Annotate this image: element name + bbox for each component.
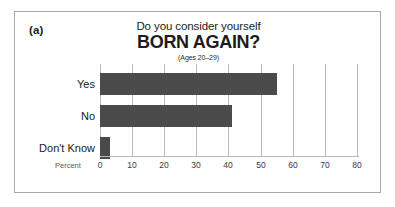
- x-tick-60: 60: [288, 160, 297, 171]
- x-tick-70: 70: [320, 160, 329, 171]
- plot-area: [100, 64, 358, 156]
- category-label-dont-know: Don't Know: [13, 142, 95, 154]
- gridline-70: [325, 64, 326, 156]
- x-tick-30: 30: [191, 160, 200, 171]
- x-tick-80: 80: [352, 160, 361, 171]
- gridline-60: [293, 64, 294, 156]
- x-axis-tick-labels: 0 10 20 30 40 50 60 70 80: [100, 160, 358, 174]
- chart-title-block: Do you consider yourself BORN AGAIN? (Ag…: [15, 20, 382, 63]
- chart-figure: (a) Do you consider yourself BORN AGAIN?…: [14, 11, 381, 193]
- category-label-no: No: [13, 110, 95, 122]
- category-label-yes: Yes: [13, 78, 95, 90]
- bar-yes: [100, 73, 277, 95]
- x-tick-0: 0: [98, 160, 103, 171]
- gridline-80: [357, 64, 358, 156]
- chart-title-line-2: BORN AGAIN?: [15, 33, 382, 52]
- category-axis-labels: Yes No Don't Know: [15, 64, 95, 156]
- x-tick-40: 40: [223, 160, 232, 171]
- x-axis-title: Percent: [55, 160, 81, 171]
- chart-subtitle: (Ages 20–29): [15, 53, 382, 63]
- x-tick-10: 10: [127, 160, 136, 171]
- x-tick-50: 50: [256, 160, 265, 171]
- bar-no: [100, 105, 232, 127]
- x-tick-20: 20: [159, 160, 168, 171]
- x-axis-line: [100, 156, 359, 157]
